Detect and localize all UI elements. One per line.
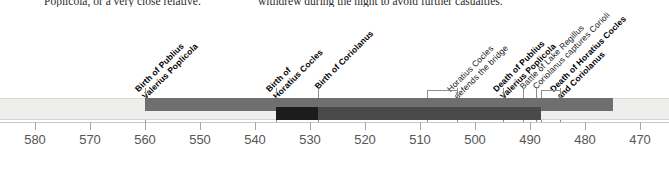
leader-bracket-final-deaths (541, 90, 560, 91)
axis-tick-label: 560 (134, 132, 156, 147)
event-label-line1: Birth of Coriolanus (313, 28, 376, 91)
timeline-figure: Poplicola, or a very close relative. wit… (0, 0, 669, 175)
axis-tick-label: 580 (24, 132, 46, 147)
axis-tick-label: 520 (354, 132, 376, 147)
axis-tick-label: 570 (79, 132, 101, 147)
body-text-right-fragment: withdrew during the night to avoid furth… (258, 0, 503, 7)
year-axis: 580570560550540530520510500490480470 (0, 122, 669, 175)
event-label-birth-coriolanus: Birth of Coriolanus (313, 29, 375, 91)
axis-tick-label: 490 (519, 132, 541, 147)
axis-tick (35, 122, 36, 130)
timeline-bar-coriolanus-lifespan (318, 107, 541, 120)
axis-tick-label: 480 (574, 132, 596, 147)
leader-bracket-horatius-bridge (427, 90, 457, 91)
axis-tick-label: 530 (299, 132, 321, 147)
axis-tick-label: 550 (189, 132, 211, 147)
event-label-birth-horatius-cocles: Birth ofHoratius Cocles (265, 41, 325, 101)
axis-tick (640, 122, 641, 130)
body-text-left-fragment: Poplicola, or a very close relative. (44, 0, 201, 7)
axis-tick (420, 122, 421, 130)
axis-tick (145, 122, 146, 130)
axis-tick (200, 122, 201, 130)
axis-tick (530, 122, 531, 130)
axis-tick (585, 122, 586, 130)
axis-tick (90, 122, 91, 130)
axis-tick-label: 470 (629, 132, 651, 147)
axis-line (0, 122, 669, 123)
axis-tick (310, 122, 311, 130)
axis-tick-label: 540 (244, 132, 266, 147)
axis-tick-label: 510 (409, 132, 431, 147)
axis-tick (475, 122, 476, 130)
axis-tick (255, 122, 256, 130)
axis-tick (365, 122, 366, 130)
timeline-track (0, 96, 669, 122)
axis-tick-label: 500 (464, 132, 486, 147)
event-label-birth-publius-valerius-poplicola: Birth of PubliusValerius Poplicola (134, 35, 200, 101)
